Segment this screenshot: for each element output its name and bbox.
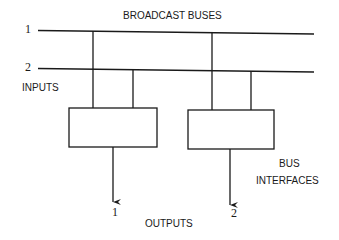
bus-1-label: 1 bbox=[25, 22, 31, 36]
bus-interface-1-box bbox=[69, 108, 157, 147]
diagram-title: BROADCAST BUSES bbox=[123, 10, 222, 21]
bus-interfaces-label-line1: BUS bbox=[279, 158, 300, 169]
inputs-label: INPUTS bbox=[22, 82, 59, 93]
bus-1-line bbox=[38, 31, 314, 35]
output-2-label: 2 bbox=[231, 206, 237, 220]
bus-interfaces-label-line2: INTERFACES bbox=[256, 175, 319, 186]
outputs-label: OUTPUTS bbox=[145, 218, 193, 229]
broadcast-bus-diagram: BROADCAST BUSES 1 2 INPUTS 1 2 OUTPUTS B… bbox=[0, 0, 339, 240]
bus-2-line bbox=[38, 69, 314, 73]
bus-2-label: 2 bbox=[25, 60, 31, 74]
output-1-label: 1 bbox=[112, 205, 118, 219]
bus-interface-2-box bbox=[188, 110, 274, 149]
